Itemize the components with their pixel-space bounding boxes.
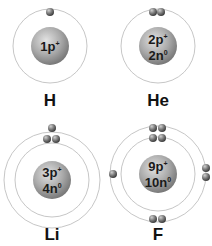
element-symbol: F	[153, 225, 163, 244]
electron-inner	[158, 134, 166, 142]
electron-outer	[48, 124, 56, 132]
electron-inner	[149, 134, 157, 142]
atom-helium: 2p+ 2n0 He	[121, 8, 195, 110]
electron-outer	[149, 124, 157, 132]
electron-outer	[158, 215, 166, 223]
electron-inner	[43, 135, 51, 143]
atom-diagrams: 1p+ H 2p+ 2n0 He 3p+ 4n0 Li 9p+ 10n0	[0, 0, 212, 246]
electron-outer	[202, 173, 210, 181]
atom-lithium: 3p+ 4n0 Li	[4, 124, 100, 244]
electron-outer	[109, 170, 117, 178]
electron	[46, 8, 54, 16]
element-symbol: He	[147, 91, 169, 110]
electron-outer	[149, 215, 157, 223]
element-symbol: Li	[44, 225, 59, 244]
element-symbol: H	[44, 91, 56, 110]
atom-hydrogen: 1p+ H	[13, 8, 87, 110]
electron-outer	[202, 164, 210, 172]
electron	[149, 8, 157, 16]
electron	[157, 8, 165, 16]
electron-inner	[52, 135, 60, 143]
atom-fluorine: 9p+ 10n0 F	[109, 124, 210, 244]
electron-outer	[158, 124, 166, 132]
